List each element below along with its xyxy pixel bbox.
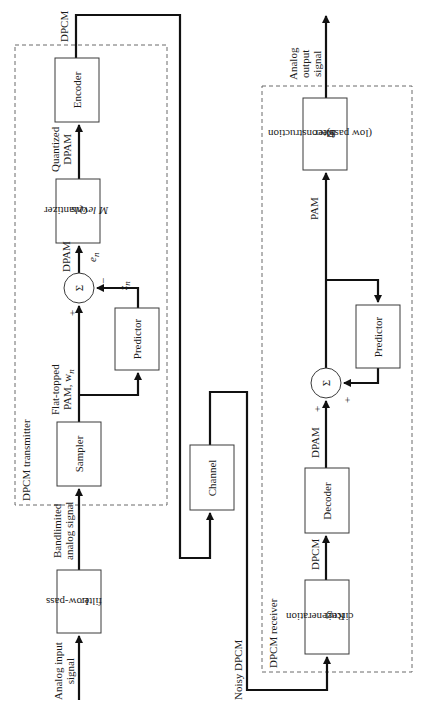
transmitter-predictor-label: Predictor [115,308,159,370]
receiver-group-label: DPCM receiver [267,599,279,668]
dpam-tx-label: DPAM [60,241,72,272]
quantizer-label: QuantizerM levels [56,179,100,243]
flat-topped-pam-label: Flat-toppedPAM, wn [49,364,77,415]
dpcm-rx-label: DPCM [309,539,321,570]
dpam-rx-label: DPAM [309,427,321,458]
pam-to-predictor-wire [326,280,378,302]
sampler-label: Sampler [57,422,101,486]
predictor-to-sum-rx-wire [344,368,378,383]
analog-output-label: Analogoutputsignal [287,48,323,80]
reconstruction-filter-label: Reconstructionfilter(low pass) [303,98,347,170]
channel-label: Channel [190,445,234,510]
encoder-label: Encoder [55,58,99,122]
pam-label: PAM [308,197,320,220]
receiver-predictor-label: Predictor [356,305,400,368]
plus-sign-rx-1: + [311,406,323,412]
analog-input-label: Analog inputsignal [52,642,76,700]
plus-sign-rx-2: + [341,397,353,403]
noisy-dpcm-label: Noisy DPCM [232,640,244,700]
receiver-summer-label: Σ [311,368,341,398]
prediction-label: zn [117,281,133,290]
quantized-dpam-label: QuantizedDPAM [49,127,73,172]
dpcm-output-label: DPCM [58,11,70,42]
minus-sign: − [97,278,109,284]
transmitter-summer-label: Σ [64,273,94,303]
error-label: en [86,253,102,262]
predictor-to-sum-wire [97,288,138,308]
regeneration-label: Regenerationcircuit [305,580,349,654]
decoder-label: Decoder [305,468,349,533]
transmitter-group-label: DPCM transmitter [20,419,32,501]
sampler-to-predictor-wire [79,373,138,395]
lowpass-filter-label: Low-passfilter [57,570,101,633]
plus-sign-tx: + [66,310,78,316]
bandlimited-label: Bandlimitedanalog signal [51,502,75,560]
